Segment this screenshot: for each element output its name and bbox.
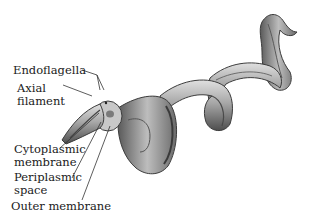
leader-axial-filament — [63, 85, 92, 96]
leader-outer-membrane — [82, 126, 110, 200]
label-cytoplasmic-membrane: Cytoplasmic membrane — [14, 143, 86, 169]
spirochete-coil-1 — [118, 96, 177, 174]
spirochete-front-end — [62, 104, 104, 144]
label-endoflagella: Endoflagella — [13, 64, 86, 77]
label-periplasmic-space: Periplasmic space — [14, 171, 82, 197]
label-axial-filament: Axial filament — [17, 82, 65, 108]
label-outer-membrane: Outer membrane — [11, 200, 111, 213]
